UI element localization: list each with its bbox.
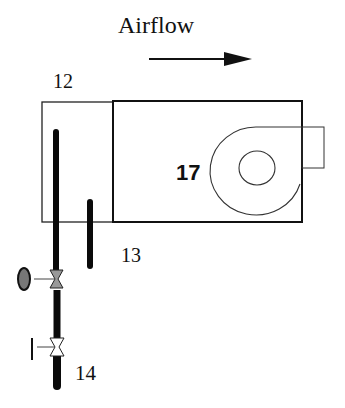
label-17: 17: [176, 160, 200, 185]
pressure-gauge-icon: [18, 268, 30, 290]
airflow-title: Airflow: [118, 12, 195, 38]
fan-outlet-duct: [302, 127, 324, 168]
fan-hub: [239, 151, 275, 185]
fan-volute: [210, 127, 302, 215]
label-14: 14: [75, 361, 97, 385]
label-12: 12: [53, 70, 73, 92]
label-13: 13: [121, 244, 141, 266]
airflow-arrow-icon: [149, 52, 252, 66]
heat-exchanger-box: [42, 102, 113, 222]
airflow-diagram: Airflow 12 17 13 14: [0, 0, 345, 408]
